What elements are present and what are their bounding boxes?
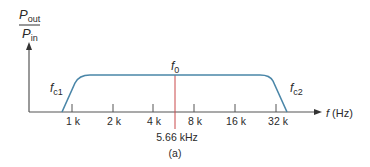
f0-label: f0 xyxy=(171,59,179,75)
tick-label-16k: 16 k xyxy=(226,115,247,127)
y-label-denominator: Pin xyxy=(22,26,38,43)
bandpass-response-diagram: Pout Pin 1 k 2 k 4 k 8 k 16 k 32 k f0 fc… xyxy=(0,0,370,167)
tick-label-2k: 2 k xyxy=(107,115,122,127)
tick-label-32k: 32 k xyxy=(268,115,289,127)
figure-caption: (a) xyxy=(169,147,182,159)
tick-label-1k: 1 k xyxy=(66,115,81,127)
tick-label-8k: 8 k xyxy=(188,115,203,127)
x-axis-arrow-icon xyxy=(314,109,322,115)
y-axis-arrow-icon xyxy=(26,42,32,50)
x-axis-label: f(Hz) xyxy=(326,107,353,119)
tick-label-4k: 4 k xyxy=(147,115,162,127)
fc1-label: fc1 xyxy=(50,81,63,97)
center-frequency-value: 5.66 kHz xyxy=(156,131,197,143)
fc2-label: fc2 xyxy=(290,81,303,97)
x-ticks xyxy=(72,104,276,112)
y-label-numerator: Pout xyxy=(19,7,41,24)
